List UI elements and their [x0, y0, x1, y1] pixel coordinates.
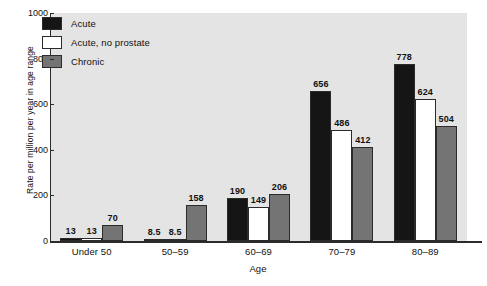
bar-group: 131370 — [50, 0, 133, 241]
bar-value-label: 8.5 — [148, 227, 161, 237]
bar-value-label: 504 — [439, 114, 454, 124]
bar: 190 — [227, 198, 248, 241]
bar-value-label: 13 — [87, 226, 97, 236]
y-axis-tick-mark — [50, 150, 54, 151]
x-axis-tick-label: 50–59 — [162, 246, 189, 257]
bar-group: 190149206 — [217, 0, 300, 241]
bar: 206 — [269, 194, 290, 241]
bar: 504 — [436, 126, 457, 241]
bar-value-label: 486 — [334, 118, 349, 128]
bar: 624 — [415, 99, 436, 241]
bar: 70 — [102, 225, 123, 241]
x-axis-tick-label: 60–69 — [245, 246, 272, 257]
y-axis-tick-mark — [50, 195, 54, 196]
bar-value-label: 656 — [313, 79, 328, 89]
x-axis-tick-label: 70–79 — [328, 246, 355, 257]
bar: 8.5 — [165, 239, 186, 241]
bar-value-label: 206 — [272, 182, 287, 192]
bar: 412 — [352, 147, 373, 241]
bar: 13 — [81, 238, 102, 241]
bar-value-label: 70 — [108, 213, 118, 223]
x-axis-title: Age — [249, 263, 266, 274]
x-axis-tick-label: 80–89 — [412, 246, 439, 257]
bar-group: 778624504 — [384, 0, 467, 241]
bar: 656 — [310, 91, 331, 241]
bar-chart-figure: Rate per million per year in age range 0… — [0, 0, 487, 286]
bar-value-label: 412 — [355, 135, 370, 145]
y-axis-tick-mark — [50, 104, 54, 105]
bar: 158 — [186, 205, 207, 241]
bar: 8.5 — [144, 239, 165, 241]
bar: 13 — [60, 238, 81, 241]
bar-value-label: 190 — [230, 186, 245, 196]
bar: 778 — [394, 64, 415, 241]
y-axis-tick-mark — [50, 59, 54, 60]
bar-value-label: 8.5 — [169, 227, 182, 237]
bar: 486 — [331, 130, 352, 241]
bar-groups: 1313708.58.51581901492066564864127786245… — [0, 0, 487, 286]
bar-value-label: 149 — [251, 195, 266, 205]
y-axis-tick-mark — [50, 13, 54, 14]
bar-value-label: 13 — [66, 226, 76, 236]
bar-value-label: 778 — [397, 52, 412, 62]
bar-group: 8.58.5158 — [133, 0, 216, 241]
bar-value-label: 624 — [418, 87, 433, 97]
bar-value-label: 158 — [188, 193, 203, 203]
bar: 149 — [248, 207, 269, 241]
x-axis-tick-label: Under 50 — [72, 246, 112, 257]
bar-group: 656486412 — [300, 0, 383, 241]
